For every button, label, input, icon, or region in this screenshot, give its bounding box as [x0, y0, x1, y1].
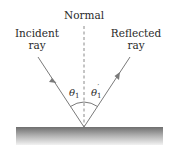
- reflected-angle-label: θ1′: [91, 83, 102, 100]
- reflecting-surface: [16, 127, 163, 145]
- reflected-label-line2: ray: [127, 39, 144, 51]
- incident-angle-label: θ1: [69, 87, 80, 100]
- incident-angle-arc: [71, 102, 85, 107]
- reflected-label-line1: Reflected: [111, 27, 162, 39]
- normal-label: Normal: [64, 9, 105, 21]
- incident-label-line1: Incident: [15, 27, 60, 39]
- reflection-diagram: Normal Incident ray Reflected ray θ1 θ1′: [0, 0, 173, 151]
- reflected-angle-arc: [84, 102, 98, 107]
- incident-label-line2: ray: [28, 39, 45, 51]
- reflected-angle-subscript: 1: [97, 92, 101, 100]
- reflected-angle-prime: ′: [98, 83, 100, 91]
- incident-angle-subscript: 1: [75, 92, 79, 100]
